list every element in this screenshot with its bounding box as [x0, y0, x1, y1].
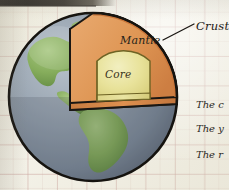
cutaway-wedge [70, 13, 177, 110]
earth-cutaway-illustration [0, 0, 229, 190]
caption-line-3: The r [196, 149, 223, 160]
label-crust: Crust [196, 19, 229, 33]
core-floor-plane [97, 93, 150, 101]
label-mantle: Mantle [120, 34, 161, 47]
caption-line-2: The y [196, 123, 224, 134]
caption-line-1: The c [196, 99, 224, 110]
crust-leader-line [163, 24, 194, 40]
label-core: Core [105, 68, 131, 80]
earth-interior-figure-page: Crust Mantle Core The c The y The r [0, 0, 229, 190]
